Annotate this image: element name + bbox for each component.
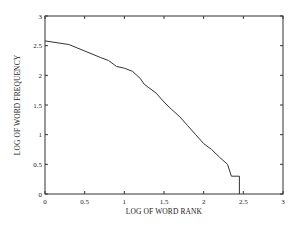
- y-tick-label: 1.5: [33, 102, 42, 110]
- y-tick-label: 2.5: [33, 42, 42, 50]
- plot-frame: [45, 16, 283, 194]
- zipf-line-chart: 00.511.522.53 00.511.522.53 LOG OF WORD …: [0, 0, 298, 228]
- x-axis-ticks: 00.511.522.53: [43, 16, 285, 206]
- x-tick-label: 2: [202, 198, 206, 206]
- x-tick-label: 0: [43, 198, 47, 206]
- x-axis-label: LOG OF WORD RANK: [126, 207, 203, 216]
- x-tick-label: 2.5: [239, 198, 248, 206]
- y-tick-label: 0.5: [33, 161, 42, 169]
- y-tick-label: 0: [39, 191, 43, 199]
- y-axis-label: LOG OF WORD FREQUENCY: [13, 54, 22, 155]
- y-tick-label: 1: [39, 131, 43, 139]
- y-tick-label: 2: [39, 72, 43, 80]
- x-tick-label: 1.5: [160, 198, 169, 206]
- data-line: [45, 41, 239, 194]
- x-tick-label: 0.5: [80, 198, 89, 206]
- y-axis-ticks: 00.511.522.53: [33, 13, 283, 199]
- x-tick-label: 1: [123, 198, 127, 206]
- y-tick-label: 3: [39, 13, 43, 21]
- x-tick-label: 3: [281, 198, 285, 206]
